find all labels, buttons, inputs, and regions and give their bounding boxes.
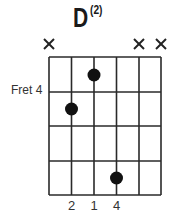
finger-number-string-2: 2 xyxy=(66,198,78,213)
mute-icon-string-5 xyxy=(134,39,144,49)
muted-marks xyxy=(44,39,166,49)
finger-number-string-3: 1 xyxy=(88,198,100,213)
chord-grid xyxy=(0,0,179,217)
mute-icon-string-1 xyxy=(44,39,54,49)
dot-string-4-fret-4 xyxy=(110,172,123,185)
frets xyxy=(49,57,161,195)
dot-string-3-fret-1 xyxy=(88,69,101,82)
dot-string-2-fret-2 xyxy=(65,103,78,116)
finger-number-string-4: 4 xyxy=(111,198,123,213)
mute-icon-string-6 xyxy=(156,39,166,49)
